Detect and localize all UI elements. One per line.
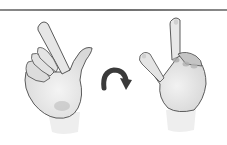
hand-rotation-illustration xyxy=(0,0,227,145)
rotation-arrow-icon xyxy=(104,70,132,90)
right-hand-icon xyxy=(139,18,206,132)
left-hand-icon xyxy=(25,22,92,134)
